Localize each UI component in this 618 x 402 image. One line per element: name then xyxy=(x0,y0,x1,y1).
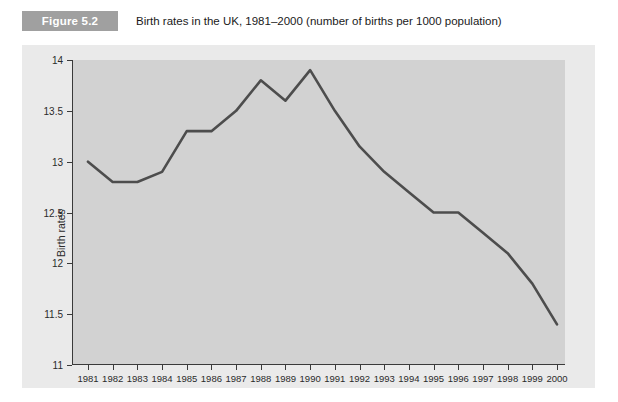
x-tick-mark xyxy=(409,365,410,370)
x-tick-label: 1987 xyxy=(226,373,247,384)
line-series xyxy=(72,60,565,365)
x-tick-mark xyxy=(483,365,484,370)
y-tick-label: 12 xyxy=(52,258,63,269)
x-tick-label: 1997 xyxy=(472,373,493,384)
x-tick-label: 1988 xyxy=(250,373,271,384)
y-tick-label: 13 xyxy=(52,156,63,167)
x-tick-mark xyxy=(310,365,311,370)
x-tick-label: 1995 xyxy=(423,373,444,384)
x-tick-mark xyxy=(261,365,262,370)
figure-caption-text: Birth rates in the UK, 1981–2000 (number… xyxy=(136,15,502,27)
figure-caption-row: Figure 5.2 Birth rates in the UK, 1981–2… xyxy=(22,9,596,33)
x-tick-label: 1984 xyxy=(151,373,172,384)
y-tick-label: 11.5 xyxy=(44,309,63,320)
x-tick-mark xyxy=(557,365,558,370)
figure-container: Figure 5.2 Birth rates in the UK, 1981–2… xyxy=(0,0,618,402)
x-tick-mark xyxy=(88,365,89,370)
chart-panel: Birth rates 1413.51312.51211.511 1981198… xyxy=(22,45,595,388)
x-tick-mark xyxy=(360,365,361,370)
x-tick-mark xyxy=(434,365,435,370)
x-tick-label: 1991 xyxy=(324,373,345,384)
x-tick-label: 1983 xyxy=(127,373,148,384)
x-tick-label: 1985 xyxy=(176,373,197,384)
plot-area: 1413.51312.51211.511 1981198219831984198… xyxy=(72,60,565,365)
x-tick-mark xyxy=(532,365,533,370)
x-tick-mark xyxy=(508,365,509,370)
x-tick-mark xyxy=(458,365,459,370)
x-tick-label: 2000 xyxy=(546,373,567,384)
x-tick-label: 1996 xyxy=(448,373,469,384)
y-tick-label: 14 xyxy=(52,55,63,66)
x-tick-mark xyxy=(211,365,212,370)
x-tick-label: 1999 xyxy=(522,373,543,384)
x-tick-label: 1990 xyxy=(300,373,321,384)
x-tick-label: 1986 xyxy=(201,373,222,384)
x-tick-mark xyxy=(335,365,336,370)
x-tick-mark xyxy=(162,365,163,370)
x-tick-label: 1993 xyxy=(374,373,395,384)
figure-number-badge: Figure 5.2 xyxy=(22,11,118,31)
y-tick-label: 13.5 xyxy=(44,105,63,116)
x-tick-label: 1981 xyxy=(77,373,98,384)
x-tick-label: 1992 xyxy=(349,373,370,384)
x-tick-mark xyxy=(384,365,385,370)
y-tick-mark xyxy=(67,365,72,366)
x-tick-mark xyxy=(236,365,237,370)
y-tick-label: 12.5 xyxy=(44,207,63,218)
x-tick-label: 1989 xyxy=(275,373,296,384)
y-tick-label: 11 xyxy=(53,360,63,371)
x-tick-mark xyxy=(113,365,114,370)
x-tick-label: 1994 xyxy=(398,373,419,384)
x-tick-mark xyxy=(137,365,138,370)
x-tick-label: 1982 xyxy=(102,373,123,384)
x-tick-mark xyxy=(285,365,286,370)
x-tick-mark xyxy=(187,365,188,370)
x-tick-label: 1998 xyxy=(497,373,518,384)
birth-rates-line xyxy=(88,70,557,324)
